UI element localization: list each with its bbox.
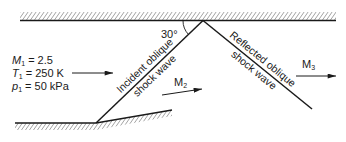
- upstream-conditions: M1 = 2.5 T1 = 250 K p1 = 50 kPa: [11, 54, 70, 93]
- shock-reflection-diagram: 30° M1 = 2.5 T1 = 250 K p1 = 50 kPa Inci…: [0, 0, 346, 142]
- angle-arc: [183, 21, 189, 35]
- reflected-shock-label: Reflected oblique shock wave: [219, 29, 298, 101]
- region2-mach-label: M2: [174, 76, 187, 89]
- svg-text:M1 = 2.5: M1 = 2.5: [12, 54, 53, 67]
- upper-wall: [20, 12, 336, 21]
- region2-flow-arrow: [162, 89, 202, 95]
- incident-shock-label: Incident oblique shock wave: [114, 35, 185, 105]
- lower-wall-with-wedge: [15, 110, 172, 130]
- svg-text:p1 = 50 kPa: p1 = 50 kPa: [11, 80, 70, 93]
- svg-text:T1 = 250 K: T1 = 250 K: [12, 67, 65, 80]
- region3-mach-label: M3: [302, 58, 315, 71]
